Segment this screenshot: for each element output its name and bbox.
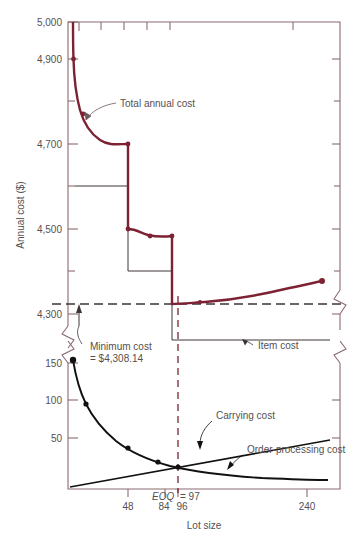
- total-annual-cost-markers: [71, 57, 325, 304]
- item-cost-label: Item cost: [258, 340, 299, 351]
- y-tick-label-4900: 4,900: [37, 54, 62, 65]
- x-tick-label-84: 84: [158, 501, 170, 512]
- minimum-cost-arrowhead: [76, 304, 82, 313]
- x-tick-label-240: 240: [299, 501, 316, 512]
- total-annual-cost-leader: [86, 103, 116, 120]
- eoq-label-value: = 97: [180, 491, 200, 502]
- total-annual-cost-arrowhead: [85, 112, 92, 120]
- top-x-ticks: [79, 22, 293, 31]
- chart-svg: 5,000 4,900 4,700 4,500 4,300 150 100 50…: [0, 0, 358, 537]
- item-cost-step-line: [75, 186, 330, 340]
- eoq-cost-chart-figure: 5,000 4,900 4,700 4,500 4,300 150 100 50…: [0, 0, 358, 537]
- top-y-minor-ticks: [68, 101, 75, 271]
- carrying-cost-arrowhead: [197, 441, 203, 450]
- carrying-cost-label: Carrying cost: [216, 410, 275, 421]
- right-axis-break-bottom: [334, 341, 346, 363]
- eoq-label-italic: EOQ: [152, 491, 174, 502]
- order-processing-cost-arrowhead: [227, 461, 234, 470]
- x-tick-label-96: 96: [176, 501, 188, 512]
- order-processing-cost-markers: [70, 357, 181, 470]
- order-processing-cost-label: Order-processing cost: [247, 444, 346, 455]
- y-tick-label-4700: 4,700: [37, 139, 62, 150]
- bottom-panel-frame: [68, 363, 340, 489]
- top-panel-frame: [68, 22, 340, 326]
- y-tick-label-4300: 4,300: [37, 309, 62, 320]
- right-axis-break-top: [334, 290, 346, 314]
- minimum-cost-leader: [78, 326, 82, 344]
- carrying-cost-leader: [200, 421, 212, 444]
- left-axis-break-top: [62, 326, 74, 348]
- total-annual-cost-label: Total annual cost: [120, 98, 195, 109]
- bottom-panel: [62, 296, 346, 497]
- y-tick-label-150: 150: [45, 358, 62, 369]
- order-processing-cost-curve: [73, 360, 328, 480]
- bottom-y-right-ticks: [332, 400, 340, 438]
- minimum-cost-label-line1: Minimum cost: [90, 341, 152, 352]
- minimum-cost-label-line2: = $4,308.14: [90, 353, 144, 364]
- y-tick-label-50: 50: [51, 433, 63, 444]
- y-tick-label-100: 100: [45, 395, 62, 406]
- y-axis-title: Annual cost ($): [15, 181, 26, 248]
- top-y-right-ticks: [332, 59, 340, 314]
- x-tick-label-48: 48: [122, 501, 134, 512]
- total-annual-cost-curve: [73, 22, 322, 304]
- y-tick-label-5000: 5,000: [37, 17, 62, 28]
- x-axis-title: Lot size: [187, 520, 222, 531]
- y-tick-label-4500: 4,500: [37, 224, 62, 235]
- top-panel: [52, 22, 346, 348]
